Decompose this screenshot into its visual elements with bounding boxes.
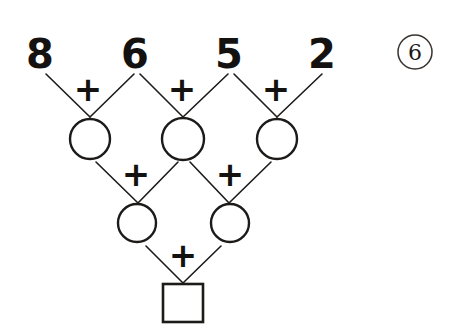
given-number-2: 6: [121, 31, 149, 77]
blank-circle-low-2[interactable]: [211, 204, 249, 242]
problem-number-badge: 6: [398, 35, 432, 69]
operators-row1: + + +: [74, 69, 291, 109]
row-answer-square[interactable]: [163, 284, 203, 322]
blank-circle-mid-3[interactable]: [257, 119, 297, 159]
blank-circle-low-1[interactable]: [118, 204, 156, 242]
worksheet-canvas: 8 6 5 2 + + + + +: [0, 0, 460, 334]
blank-circle-mid-2[interactable]: [162, 118, 204, 160]
operators-row3: +: [169, 235, 198, 275]
row-blank-circles-1[interactable]: [70, 118, 297, 160]
given-number-1: 8: [26, 31, 54, 77]
plus-operator-2: +: [168, 69, 197, 109]
plus-operator-5: +: [216, 154, 245, 194]
plus-operator-4: +: [122, 154, 151, 194]
blank-circle-mid-1[interactable]: [70, 119, 110, 159]
plus-operator-3: +: [262, 69, 291, 109]
given-number-4: 2: [308, 31, 336, 77]
answer-square[interactable]: [163, 284, 203, 322]
problem-number-label: 6: [408, 40, 422, 65]
plus-operator-1: +: [74, 69, 103, 109]
addition-pyramid-figure: 8 6 5 2 + + + + +: [0, 0, 460, 334]
plus-operator-6: +: [169, 235, 198, 275]
given-number-3: 5: [215, 31, 243, 77]
